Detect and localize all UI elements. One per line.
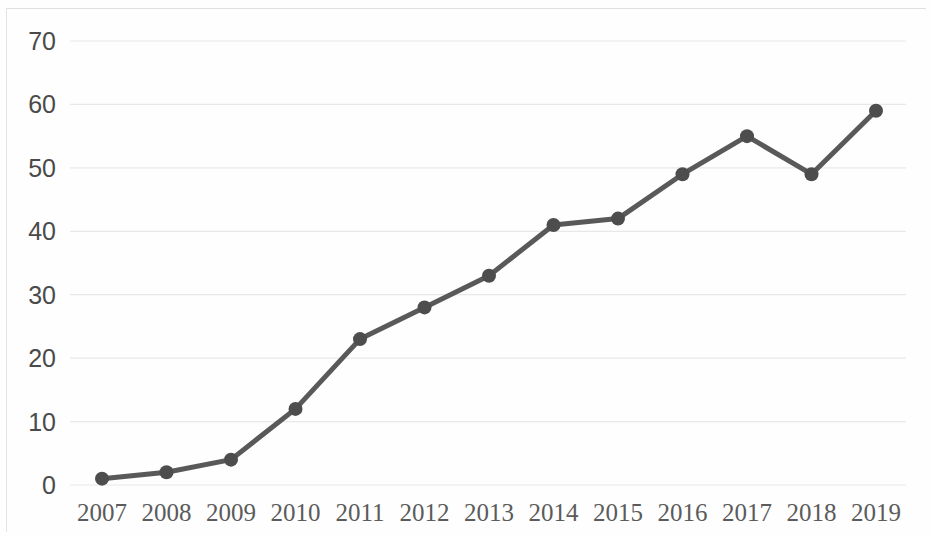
x-axis-tick-label: 2018: [787, 500, 837, 525]
x-axis-tick-label: 2013: [464, 500, 514, 525]
x-axis-tick-label: 2014: [529, 500, 579, 525]
data-point: [482, 269, 496, 283]
y-axis-tick-label: 50: [10, 155, 56, 180]
y-axis-tick-label: 10: [10, 409, 56, 434]
data-point: [869, 104, 883, 118]
x-axis-tick-label: 2017: [722, 500, 772, 525]
y-axis-tick-label: 70: [10, 29, 56, 54]
line-chart: 010203040506070 200720082009201020112012…: [0, 0, 932, 536]
data-point: [95, 472, 109, 486]
chart-canvas: [0, 0, 932, 536]
x-axis-tick-label: 2010: [271, 500, 321, 525]
data-point: [805, 167, 819, 181]
y-axis-tick-label: 0: [10, 473, 56, 498]
data-point: [224, 453, 238, 467]
x-axis-tick-label: 2011: [335, 500, 384, 525]
x-axis-tick-label: 2019: [851, 500, 901, 525]
data-point: [611, 212, 625, 226]
x-axis-tick-label: 2016: [658, 500, 708, 525]
plot-area: 010203040506070 200720082009201020112012…: [0, 0, 932, 536]
x-axis-tick-label: 2007: [77, 500, 127, 525]
y-axis-tick-label: 40: [10, 219, 56, 244]
y-axis-tick-label: 60: [10, 92, 56, 117]
data-point: [353, 332, 367, 346]
y-axis-tick-label: 30: [10, 282, 56, 307]
x-axis-tick-label: 2012: [400, 500, 450, 525]
data-point: [740, 129, 754, 143]
gridlines: [70, 41, 906, 485]
x-axis-tick-label: 2008: [142, 500, 192, 525]
data-point: [289, 402, 303, 416]
x-axis-tick-label: 2009: [206, 500, 256, 525]
y-axis-tick-label: 20: [10, 346, 56, 371]
data-point: [160, 465, 174, 479]
data-point: [418, 300, 432, 314]
data-point: [676, 167, 690, 181]
x-axis-tick-label: 2015: [593, 500, 643, 525]
data-point: [547, 218, 561, 232]
